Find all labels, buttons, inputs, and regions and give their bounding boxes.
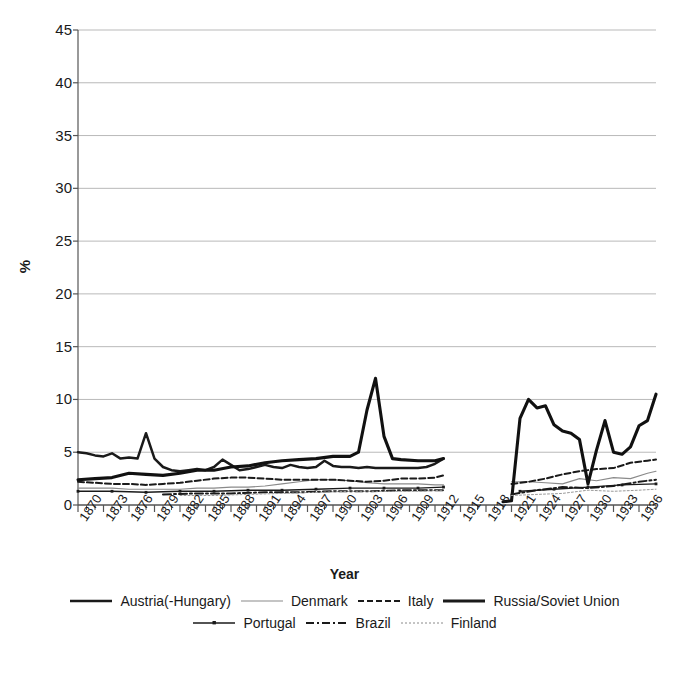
legend-swatch <box>240 595 284 607</box>
legend-item[interactable]: Brazil <box>305 615 391 631</box>
legend-item[interactable]: Russia/Soviet Union <box>442 593 619 609</box>
x-tick-label: 1924 <box>536 492 563 523</box>
x-tick-label: 1870 <box>77 492 104 523</box>
legend-item[interactable]: Austria(-Hungary) <box>69 593 230 609</box>
legend-label: Brazil <box>356 615 391 631</box>
x-tick-label: 1936 <box>638 492 665 523</box>
x-tick-label: 1915 <box>460 492 487 523</box>
x-axis-title: Year <box>0 566 689 582</box>
x-tick-label: 1891 <box>256 492 283 523</box>
legend-line-icon <box>69 595 113 607</box>
legend-label: Russia/Soviet Union <box>493 593 619 609</box>
x-tick-label: 1918 <box>485 492 512 523</box>
x-tick-label: 1876 <box>128 492 155 523</box>
x-tick-label: 1894 <box>281 492 308 523</box>
x-tick-label: 1873 <box>103 492 130 523</box>
legend-swatch <box>400 617 444 629</box>
legend-label: Portugal <box>243 615 295 631</box>
legend-line-icon <box>192 617 236 629</box>
legend-item[interactable]: Finland <box>400 615 497 631</box>
legend-line-icon <box>442 595 486 607</box>
legend-swatch <box>357 595 401 607</box>
legend-item[interactable]: Italy <box>357 593 434 609</box>
x-tick-label: 1930 <box>587 492 614 523</box>
x-tick-label: 1900 <box>332 492 359 523</box>
legend-swatch <box>305 617 349 629</box>
legend-line-icon <box>357 595 401 607</box>
x-tick-label: 1882 <box>179 492 206 523</box>
x-tick-label: 1909 <box>409 492 436 523</box>
legend-label: Finland <box>451 615 497 631</box>
legend-item[interactable]: Denmark <box>240 593 348 609</box>
legend-line-icon <box>400 617 444 629</box>
x-tick-label: 1912 <box>434 492 461 523</box>
legend-swatch <box>442 595 486 607</box>
chart-figure: % 454035302520151050 1870187318761879188… <box>0 0 689 673</box>
legend-label: Denmark <box>291 593 348 609</box>
x-tick-label: 1885 <box>205 492 232 523</box>
x-tick-label: 1888 <box>230 492 257 523</box>
legend-row: PortugalBrazilFinland <box>0 612 689 634</box>
x-tick-label: 1903 <box>358 492 385 523</box>
legend-label: Austria(-Hungary) <box>120 593 230 609</box>
x-tick-label: 1906 <box>383 492 410 523</box>
chart-legend: Austria(-Hungary)DenmarkItalyRussia/Sovi… <box>0 590 689 634</box>
x-tick-label: 1933 <box>613 492 640 523</box>
x-tick-label: 1927 <box>562 492 589 523</box>
legend-row: Austria(-Hungary)DenmarkItalyRussia/Sovi… <box>0 590 689 612</box>
x-tick-label: 1921 <box>511 492 538 523</box>
legend-label: Italy <box>408 593 434 609</box>
legend-line-icon <box>305 617 349 629</box>
legend-item[interactable]: Portugal <box>192 615 295 631</box>
legend-swatch <box>192 617 236 629</box>
legend-line-icon <box>240 595 284 607</box>
legend-swatch <box>69 595 113 607</box>
x-tick-label: 1879 <box>154 492 181 523</box>
x-tick-label: 1897 <box>307 492 334 523</box>
